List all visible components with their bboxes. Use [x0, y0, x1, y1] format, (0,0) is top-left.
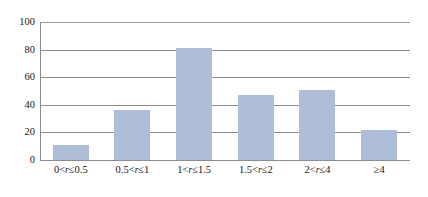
- bar[interactable]: [114, 110, 150, 160]
- y-axis-tick-label: 100: [2, 17, 35, 28]
- x-axis-category-label: ≥4: [348, 164, 410, 177]
- bar-chart: 020406080100 0<r≤0.50.5<r≤11<r≤1.51.5<r≤…: [0, 0, 428, 197]
- bar[interactable]: [176, 48, 212, 160]
- bar[interactable]: [53, 145, 89, 160]
- x-axis-category-labels: 0<r≤0.50.5<r≤11<r≤1.51.5<r≤22<r≤4≥4: [40, 164, 410, 184]
- bar-slot: [225, 22, 287, 160]
- y-axis-tick-label: 0: [2, 155, 35, 166]
- x-axis-category-label: 0<r≤0.5: [40, 164, 102, 177]
- bar[interactable]: [299, 90, 335, 160]
- plot-area: [40, 22, 410, 160]
- x-axis-category-label: 1<r≤1.5: [163, 164, 225, 177]
- bar-slot: [287, 22, 349, 160]
- x-axis-category-label: 1.5<r≤2: [225, 164, 287, 177]
- bar-slot: [348, 22, 410, 160]
- x-axis-baseline: [40, 160, 410, 161]
- bar[interactable]: [361, 130, 397, 160]
- y-axis-tick-label: 60: [2, 72, 35, 83]
- x-axis-category-label: 0.5<r≤1: [102, 164, 164, 177]
- bar-slot: [102, 22, 164, 160]
- y-axis-tick-label: 40: [2, 100, 35, 111]
- bars-layer: [40, 22, 410, 160]
- bar[interactable]: [238, 95, 274, 160]
- y-axis-tick-label: 80: [2, 45, 35, 56]
- y-axis-tick-label: 20: [2, 127, 35, 138]
- bar-slot: [163, 22, 225, 160]
- x-axis-category-label: 2<r≤4: [287, 164, 349, 177]
- bar-slot: [40, 22, 102, 160]
